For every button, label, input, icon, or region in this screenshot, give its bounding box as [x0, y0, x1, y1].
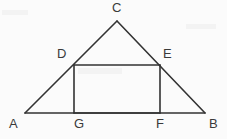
vertex-label-c: C	[112, 1, 121, 14]
geometry-figure: A B C D E F G	[0, 0, 227, 139]
vertex-label-e: E	[163, 47, 172, 60]
segment-AC	[25, 21, 117, 113]
vertex-label-d: D	[57, 47, 66, 60]
vertex-label-f: F	[156, 117, 164, 130]
vertex-label-b: B	[209, 117, 218, 130]
geometry-canvas	[0, 0, 227, 139]
segment-CB	[117, 21, 205, 113]
vertex-label-g: G	[74, 117, 84, 130]
vertex-label-a: A	[9, 117, 18, 130]
